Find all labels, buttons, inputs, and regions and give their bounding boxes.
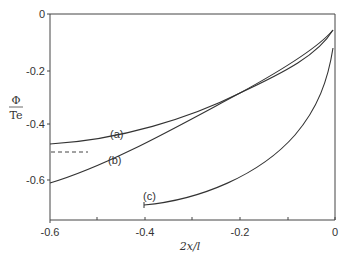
y-tick-label: 0	[39, 8, 45, 20]
x-tick-label: 0	[332, 226, 338, 238]
curve-a	[50, 30, 333, 144]
y-label-denominator: Te	[10, 109, 23, 122]
y-label-numerator: Φ	[11, 94, 20, 107]
curve-label-c: (c)	[143, 190, 156, 202]
curve-label-b: (b)	[108, 154, 121, 166]
x-tick-label: -0.2	[231, 226, 250, 238]
y-axis-label: Φ Te	[9, 94, 23, 122]
plot-frame	[50, 14, 335, 220]
curve-b	[50, 30, 333, 183]
y-tick-label: -0.6	[26, 174, 45, 186]
x-tick-label: -0.6	[41, 226, 60, 238]
y-tick-label: -0.2	[26, 65, 45, 77]
chart: 0 -0.2 -0.4 -0.6 -0.6 -0.4 -0.2 0 2x/l Φ…	[0, 0, 349, 256]
curve-label-a: (a)	[110, 128, 123, 140]
x-tick-label: -0.4	[136, 226, 155, 238]
y-tick-label: -0.4	[26, 118, 45, 130]
curve-c	[144, 48, 333, 205]
x-axis-label: 2x/l	[179, 240, 201, 253]
